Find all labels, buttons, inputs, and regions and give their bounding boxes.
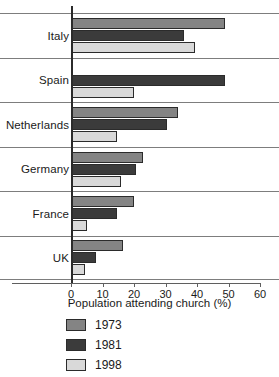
bar-netherlands-1998: [71, 131, 117, 142]
bars-france: [71, 195, 279, 233]
category-label-spain: Spain: [39, 74, 69, 86]
bar-italy-1973: [71, 18, 225, 29]
bar-uk-1981: [71, 252, 96, 263]
legend-label-1973: 1973: [95, 318, 122, 332]
legend-item-1981: 1981: [66, 335, 122, 355]
bars-germany: [71, 151, 279, 189]
category-label-france: France: [33, 208, 69, 220]
x-axis-tick-10: [103, 283, 104, 287]
bar-france-1973: [71, 196, 134, 207]
bars-spain: [71, 62, 279, 100]
bar-germany-1981: [71, 164, 136, 175]
x-axis-tick-40: [197, 283, 198, 287]
bar-group-netherlands: Netherlands: [0, 102, 279, 147]
category-label-germany: Germany: [21, 163, 69, 175]
plot-area: Italy Spain Netherlands Ge: [0, 13, 279, 283]
bar-italy-1998: [71, 42, 195, 53]
legend-label-1981: 1981: [95, 338, 122, 352]
x-axis-title-text: Population attending church (%): [68, 297, 232, 309]
bar-group-uk: UK: [0, 236, 279, 281]
bar-group-france: France: [0, 191, 279, 236]
bars-italy: [71, 17, 279, 55]
bar-group-italy: Italy: [0, 13, 279, 58]
category-label-italy: Italy: [47, 30, 69, 42]
legend-swatch-1973: [66, 319, 86, 331]
bar-group-spain: Spain: [0, 58, 279, 103]
bar-group-germany: Germany: [0, 147, 279, 192]
legend-label-1998: 1998: [95, 358, 122, 372]
x-axis-line: [12, 283, 260, 284]
bar-france-1998: [71, 220, 87, 231]
legend-swatch-1981: [66, 339, 86, 351]
bar-uk-1973: [71, 240, 123, 251]
category-label-uk: UK: [53, 252, 69, 264]
bar-uk-1998: [71, 264, 85, 275]
legend: 1973 1981 1998: [66, 315, 122, 375]
category-label-netherlands: Netherlands: [6, 119, 69, 131]
bars-netherlands: [71, 106, 279, 144]
x-axis-tick-30: [166, 283, 167, 287]
bars-uk: [71, 240, 279, 277]
bar-netherlands-1981: [71, 119, 167, 130]
bar-france-1981: [71, 208, 117, 219]
bar-spain-1998: [71, 87, 134, 98]
church-attendance-bar-chart: Italy Spain Netherlands Ge: [0, 0, 279, 377]
bar-germany-1998: [71, 176, 121, 187]
legend-item-1998: 1998: [66, 355, 122, 375]
x-axis-tick-20: [134, 283, 135, 287]
bar-netherlands-1973: [71, 107, 178, 118]
x-axis-tick-50: [229, 283, 230, 287]
value-axis-zero-line: [71, 6, 73, 284]
x-axis-title: Population attending church (%): [0, 297, 279, 309]
x-axis-tick-0: [71, 283, 72, 287]
bar-italy-1981: [71, 30, 184, 41]
legend-item-1973: 1973: [66, 315, 122, 335]
legend-swatch-1998: [66, 359, 86, 371]
bar-germany-1973: [71, 152, 143, 163]
x-axis-tick-60: [260, 283, 261, 287]
bar-spain-1981: [71, 75, 225, 86]
